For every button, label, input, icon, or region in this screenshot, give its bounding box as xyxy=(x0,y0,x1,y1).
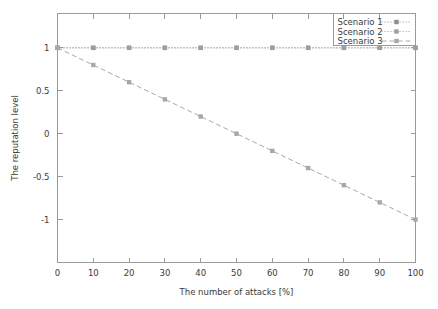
data-point-marker xyxy=(378,200,382,204)
plot-frame xyxy=(58,14,416,263)
x-axis-ticks: 0102030405060708090100 xyxy=(55,14,424,278)
x-axis-title: The number of attacks [%] xyxy=(179,287,294,297)
data-point-marker xyxy=(91,46,95,50)
data-point-marker xyxy=(163,46,167,50)
x-tick-label: 10 xyxy=(88,268,99,278)
x-tick-label: 70 xyxy=(303,268,314,278)
chart-plot-area: 0102030405060708090100 10.50-0.5-1 Scena… xyxy=(0,0,438,309)
legend-label-1: Scenario 1 xyxy=(338,17,383,27)
y-tick-label: 1 xyxy=(44,43,49,53)
data-point-marker xyxy=(378,46,382,50)
x-tick-label: 40 xyxy=(195,268,206,278)
y-axis-ticks: 10.50-0.5-1 xyxy=(33,43,416,225)
y-tick-label: 0 xyxy=(44,129,49,139)
data-point-marker xyxy=(55,46,59,50)
legend-label-3: Scenario 3 xyxy=(338,36,383,46)
data-point-marker xyxy=(163,97,167,101)
chart-legend: Scenario 1Scenario 2Scenario 3 xyxy=(334,14,416,47)
legend-marker-sample-3 xyxy=(394,39,398,43)
data-point-marker xyxy=(270,149,274,153)
chart-figure: 0102030405060708090100 10.50-0.5-1 Scena… xyxy=(0,0,438,309)
legend-label-2: Scenario 2 xyxy=(338,27,383,37)
data-point-marker xyxy=(270,46,274,50)
x-tick-label: 30 xyxy=(159,268,170,278)
data-point-marker xyxy=(234,46,238,50)
x-tick-label: 100 xyxy=(407,268,423,278)
y-tick-label: 0.5 xyxy=(36,86,50,96)
x-tick-label: 90 xyxy=(374,268,385,278)
data-point-marker xyxy=(127,80,131,84)
data-point-marker xyxy=(413,217,417,221)
x-tick-label: 60 xyxy=(267,268,278,278)
legend-marker-sample-2 xyxy=(394,29,398,33)
data-point-marker xyxy=(306,166,310,170)
data-point-marker xyxy=(342,183,346,187)
x-tick-label: 20 xyxy=(124,268,135,278)
data-series-group xyxy=(55,46,417,222)
data-point-marker xyxy=(199,46,203,50)
data-point-marker xyxy=(91,63,95,67)
y-axis-title: The reputation level xyxy=(10,95,20,182)
x-tick-label: 50 xyxy=(231,268,242,278)
y-tick-label: -1 xyxy=(41,215,49,225)
data-point-marker xyxy=(127,46,131,50)
y-tick-label: -0.5 xyxy=(33,172,50,182)
data-point-marker xyxy=(342,46,346,50)
data-point-marker xyxy=(413,46,417,50)
legend-marker-sample-1 xyxy=(394,20,398,24)
data-point-marker xyxy=(199,114,203,118)
data-point-marker xyxy=(306,46,310,50)
x-tick-label: 0 xyxy=(55,268,60,278)
data-point-marker xyxy=(234,132,238,136)
x-tick-label: 80 xyxy=(338,268,349,278)
